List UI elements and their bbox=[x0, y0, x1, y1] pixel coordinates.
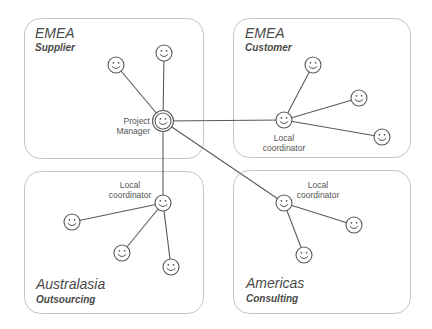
region-title-emea-customer: EMEA bbox=[245, 25, 285, 41]
person-icon-customer-3 bbox=[374, 129, 390, 145]
region-title-australasia: Australasia bbox=[35, 276, 105, 292]
person-icon-supplier-1 bbox=[108, 57, 124, 73]
region-subtitle-customer: Customer bbox=[245, 42, 293, 53]
person-icon-australasia-2 bbox=[114, 245, 130, 261]
local-coordinator-icon-australasia bbox=[155, 195, 171, 211]
smiley-person-icon bbox=[155, 113, 171, 129]
project-manager-label-line1: Project bbox=[124, 116, 151, 126]
person-icon-customer-2 bbox=[351, 90, 367, 106]
person-icon-customer-1 bbox=[305, 57, 321, 73]
australasia-coordinator-label-line1: Local bbox=[120, 180, 140, 190]
region-title-emea-supplier: EMEA bbox=[35, 25, 75, 41]
project-manager-node bbox=[153, 111, 174, 132]
americas-coordinator-label-line2: coordinator bbox=[297, 190, 340, 200]
person-icon-australasia-1 bbox=[64, 214, 80, 230]
region-subtitle-supplier: Supplier bbox=[35, 42, 76, 53]
americas-coordinator-label-line1: Local bbox=[308, 180, 328, 190]
region-subtitle-consulting: Consulting bbox=[246, 293, 298, 304]
australasia-coordinator-label-line2: coordinator bbox=[109, 190, 152, 200]
region-title-americas: Americas bbox=[245, 275, 304, 291]
project-manager-label-line2: Manager bbox=[116, 126, 150, 136]
org-diagram: EMEA Supplier EMEA Customer Australasia … bbox=[0, 0, 432, 329]
local-coordinator-icon-customer bbox=[276, 112, 292, 128]
region-subtitle-outsourcing: Outsourcing bbox=[36, 294, 95, 305]
person-icon-supplier-2 bbox=[156, 45, 172, 61]
person-icon-americas-1 bbox=[346, 217, 362, 233]
customer-coordinator-label-line1: Local bbox=[274, 133, 294, 143]
person-icon-americas-2 bbox=[296, 247, 312, 263]
customer-coordinator-label-line2: coordinator bbox=[263, 143, 306, 153]
local-coordinator-icon-americas bbox=[276, 195, 292, 211]
person-icon-australasia-3 bbox=[163, 259, 179, 275]
